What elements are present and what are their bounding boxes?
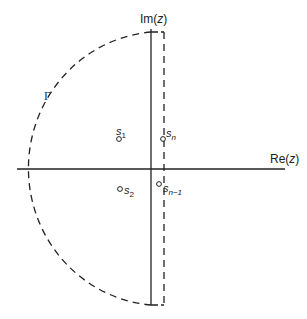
- imaginary-axis-label: Im(z): [140, 12, 167, 26]
- contour-label: Γ: [44, 89, 51, 103]
- label-sn: sn: [166, 127, 177, 142]
- point-s2: [118, 187, 123, 192]
- complex-plane-diagram: Im(z) Re(z) Γ s1 sn s2 sn−1: [0, 0, 307, 319]
- real-axis-label: Re(z): [270, 152, 299, 166]
- point-sn-1: [157, 182, 162, 187]
- label-s2: s2: [124, 184, 135, 199]
- point-sn: [161, 137, 166, 142]
- label-sn-minus-1: sn−1: [163, 182, 182, 197]
